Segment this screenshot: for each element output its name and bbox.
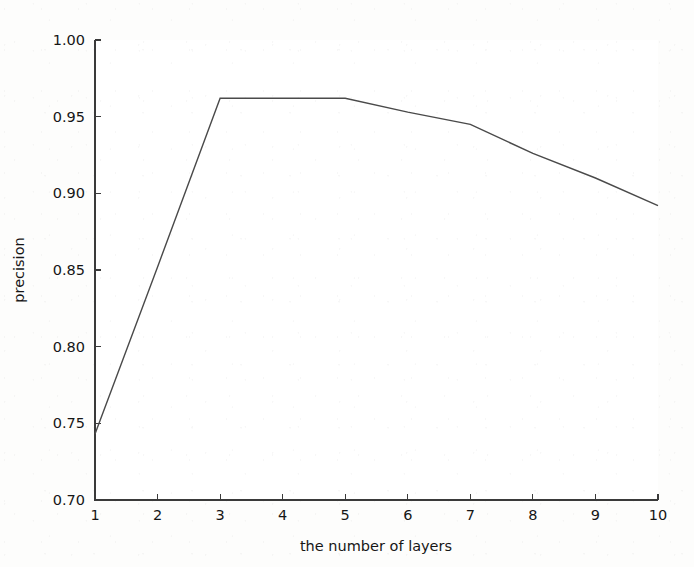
y-tick-label: 0.90 <box>53 185 85 201</box>
x-tick-label: 7 <box>466 507 475 523</box>
x-tick-label: 10 <box>649 507 667 523</box>
figure-canvas: 0.700.750.800.850.900.951.00 12345678910… <box>0 0 694 567</box>
y-tick-label: 0.75 <box>53 415 85 431</box>
x-tick-label: 3 <box>215 507 224 523</box>
y-tick-label: 1.00 <box>53 32 85 48</box>
x-tick-label: 4 <box>278 507 287 523</box>
y-tick-label: 0.80 <box>53 339 85 355</box>
x-tick-label: 8 <box>528 507 537 523</box>
x-tick-label: 5 <box>341 507 350 523</box>
plot-background <box>95 40 658 500</box>
x-tick-label: 6 <box>403 507 412 523</box>
y-tick-label: 0.70 <box>53 492 85 508</box>
y-tick-label: 0.85 <box>53 262 85 278</box>
x-tick-label: 2 <box>153 507 162 523</box>
x-axis-title: the number of layers <box>300 538 452 554</box>
line-chart: 0.700.750.800.850.900.951.00 12345678910… <box>0 0 694 567</box>
y-axis-title: precision <box>11 237 27 302</box>
x-tick-label: 9 <box>591 507 600 523</box>
x-tick-label: 1 <box>90 507 99 523</box>
y-tick-label: 0.95 <box>53 109 85 125</box>
y-axis-ticks: 0.700.750.800.850.900.951.00 <box>53 32 101 508</box>
